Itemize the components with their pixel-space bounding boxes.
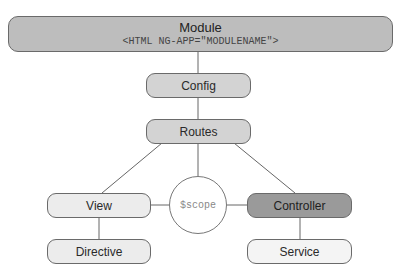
routes-node: Routes <box>146 119 251 144</box>
module-code: <HTML NG-APP="MODULENAME"> <box>122 35 278 48</box>
edge-routes-view <box>102 143 162 193</box>
config-node: Config <box>146 73 251 98</box>
module-title: Module <box>179 20 222 35</box>
directive-node: Directive <box>47 239 151 264</box>
view-node: View <box>47 193 151 218</box>
scope-node: $scope <box>169 176 227 234</box>
service-node: Service <box>247 239 352 264</box>
module-node: Module <HTML NG-APP="MODULENAME"> <box>8 16 393 52</box>
controller-node: Controller <box>247 193 352 218</box>
edge-routes-controller <box>234 143 295 193</box>
